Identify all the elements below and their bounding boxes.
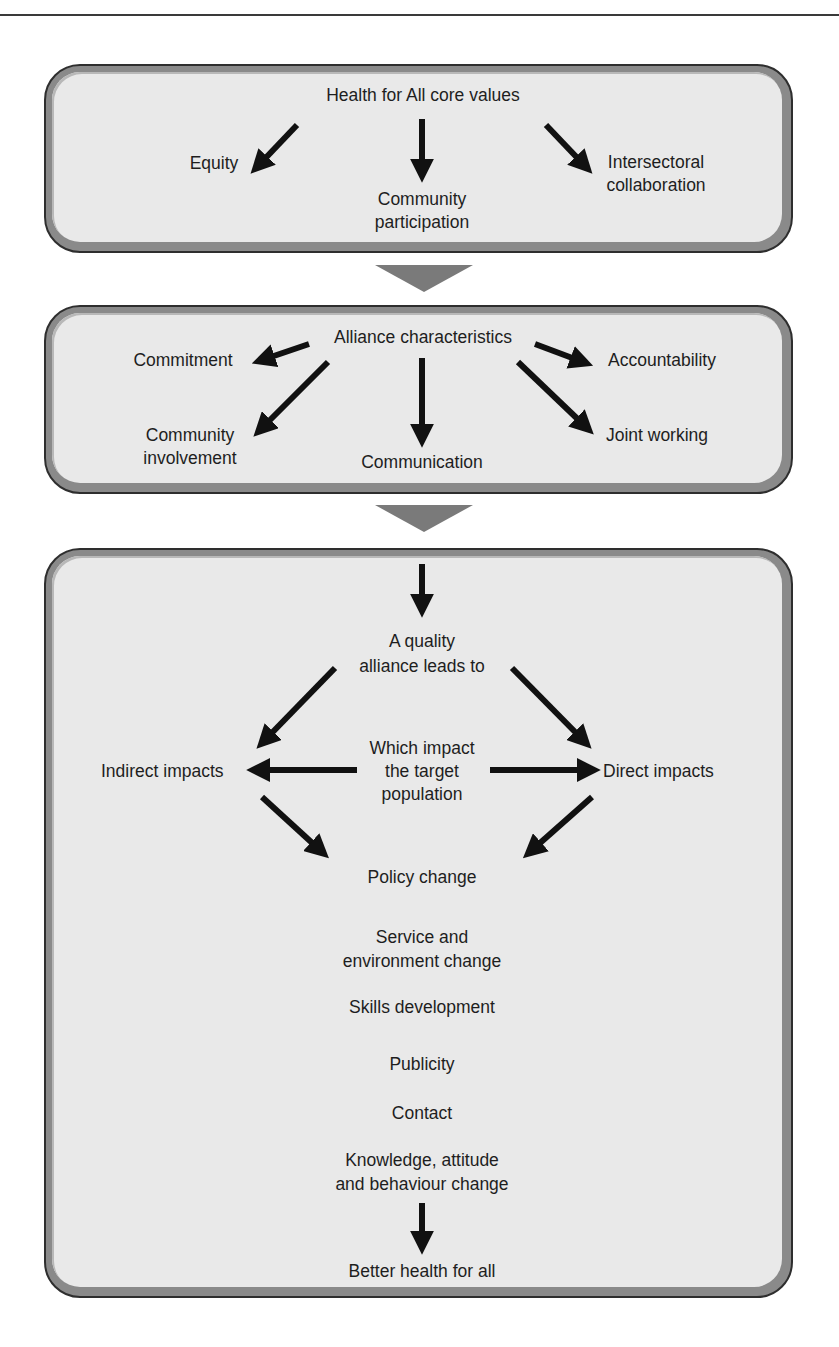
better-health-label: Better health for all (322, 1260, 522, 1282)
community-involvement-label-2: involvement (130, 447, 250, 469)
core-values-title: Health for All core values (323, 84, 523, 106)
intersectoral-label-1: Intersectoral (596, 151, 716, 173)
header-divider (0, 14, 839, 16)
alliance-characteristics-title: Alliance characteristics (318, 326, 528, 348)
outcome-service-2: environment change (322, 950, 522, 972)
which-impact-label-2: the target (352, 760, 492, 782)
flow-connector-1 (375, 265, 473, 292)
joint-working-label: Joint working (597, 424, 717, 446)
quality-alliance-label-2: alliance leads to (342, 655, 502, 677)
community-involvement-label-1: Community (130, 424, 250, 446)
which-impact-label-3: population (352, 783, 492, 805)
accountability-label: Accountability (597, 349, 727, 371)
outcome-skills: Skills development (322, 996, 522, 1018)
indirect-impacts-label: Indirect impacts (101, 760, 241, 782)
outcome-policy-change: Policy change (322, 866, 522, 888)
outcome-contact: Contact (322, 1102, 522, 1124)
outcome-knowledge-1: Knowledge, attitude (302, 1149, 542, 1171)
page-header-fragment: gy p p p (0, 0, 839, 13)
direct-impacts-label: Direct impacts (603, 760, 743, 782)
flow-connector-2 (375, 505, 473, 532)
quality-alliance-label-1: A quality (342, 630, 502, 652)
outcome-publicity: Publicity (322, 1053, 522, 1075)
equity-label: Equity (184, 152, 244, 174)
community-participation-label-1: Community (362, 188, 482, 210)
community-participation-label-2: participation (362, 211, 482, 233)
communication-label: Communication (342, 451, 502, 473)
outcome-service-1: Service and (322, 926, 522, 948)
intersectoral-label-2: collaboration (596, 174, 716, 196)
commitment-label: Commitment (118, 349, 248, 371)
which-impact-label-1: Which impact (352, 737, 492, 759)
outcome-knowledge-2: and behaviour change (302, 1173, 542, 1195)
